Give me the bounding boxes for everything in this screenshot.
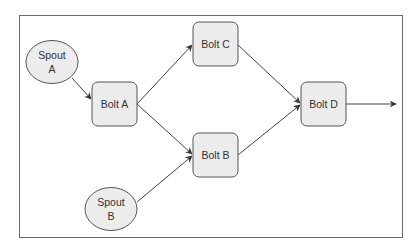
bolt-c-label: Bolt C xyxy=(201,38,230,50)
edge-bolt-b-to-bolt-d xyxy=(238,105,300,155)
topology-diagram: Spout A Spout B Bolt A Bolt B Bolt C Bol… xyxy=(0,0,419,251)
edge-bolt-a-to-bolt-c xyxy=(137,45,192,104)
node-bolt-c[interactable]: Bolt C xyxy=(193,22,238,66)
spout-a-label-line2: A xyxy=(48,63,55,75)
spout-a-label-line1: Spout xyxy=(38,49,66,61)
spout-b-label-line1: Spout xyxy=(97,196,125,208)
node-bolt-b[interactable]: Bolt B xyxy=(193,133,238,177)
edge-bolt-a-to-bolt-b xyxy=(137,104,192,154)
bolt-a-label: Bolt A xyxy=(101,98,128,110)
bolt-b-label: Bolt B xyxy=(201,149,229,161)
edge-spout-b-to-bolt-b xyxy=(137,156,192,202)
spout-b-shape xyxy=(85,188,137,231)
edge-spout-a-to-bolt-a xyxy=(72,78,91,99)
node-bolt-a[interactable]: Bolt A xyxy=(92,82,137,126)
node-spout-b[interactable]: Spout B xyxy=(85,188,137,231)
node-bolt-d[interactable]: Bolt D xyxy=(301,82,346,126)
edge-bolt-c-to-bolt-d xyxy=(238,45,300,103)
spout-b-label-line2: B xyxy=(107,210,114,222)
bolt-d-label: Bolt D xyxy=(309,98,338,110)
node-spout-a[interactable]: Spout A xyxy=(26,41,78,84)
spout-a-shape xyxy=(26,41,78,84)
